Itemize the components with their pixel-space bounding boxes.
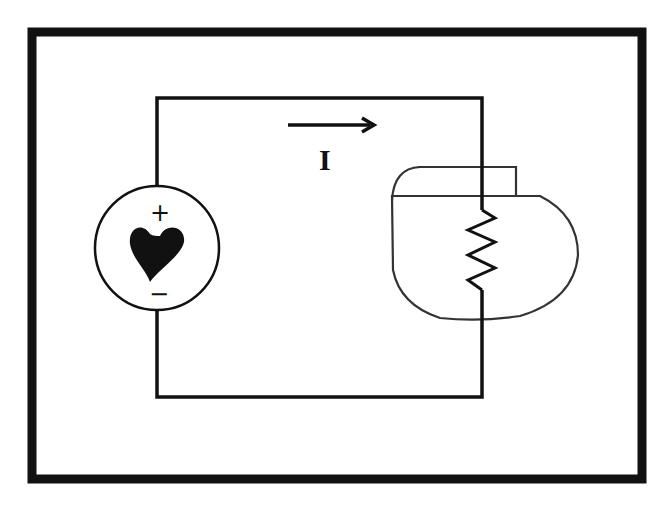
current-label: I (319, 143, 331, 176)
plus-sign: + (150, 199, 170, 227)
heart-voltage-source: + − (95, 186, 219, 310)
current-arrow-icon (288, 118, 374, 132)
minus-sign: − (149, 280, 169, 308)
resistor-icon (468, 210, 495, 290)
circuit-diagram: I + − (0, 0, 669, 506)
pacemaker-outline (392, 167, 578, 320)
